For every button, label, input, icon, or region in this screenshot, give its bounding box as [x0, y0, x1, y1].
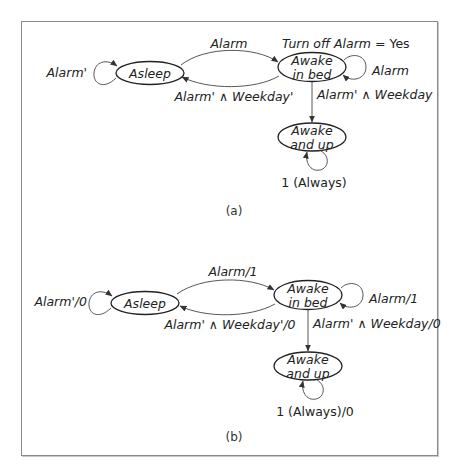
edge-awake-in-bed-self-b	[340, 284, 363, 308]
state-label-awake-in-bed-line1-b: Awake	[286, 281, 329, 296]
transition-label-awake-in-bed-to-asleep-b: Alarm' ∧ Weekday'/0	[163, 317, 295, 332]
edge-awake-in-bed-to-asleep-b	[180, 304, 275, 315]
output-note-a: Turn off Alarm = Yes	[282, 36, 410, 51]
transition-label-asleep-self-b: Alarm'/0	[33, 294, 87, 309]
edge-awake-in-bed-to-asleep-a	[182, 76, 279, 87]
edge-asleep-self-b	[89, 292, 112, 315]
transition-label-asleep-self-a: Alarm'	[46, 65, 87, 80]
transition-label-asleep-to-awake-in-bed-a: Alarm	[210, 36, 248, 51]
state-label-awake-and-up-line1-a: Awake	[290, 123, 333, 138]
output-note-plain-a: = Yes	[371, 36, 410, 51]
state-label-asleep-a: Asleep	[128, 66, 171, 81]
edge-asleep-to-awake-in-bed-a	[181, 50, 278, 65]
transition-label-awake-and-up-self-a: 1 (Always)	[281, 175, 347, 190]
edge-asleep-to-awake-in-bed-b	[177, 280, 274, 294]
diagram-a: Asleep Awake in bed Awake and up Turn of…	[46, 36, 434, 218]
diagram-b: Asleep Awake in bed Awake and up Alarm'/…	[33, 264, 440, 444]
state-label-awake-in-bed-line1-a: Awake	[290, 53, 333, 68]
edge-asleep-self-a	[94, 62, 117, 85]
transition-label-awake-in-bed-to-awake-and-up-b: Alarm' ∧ Weekday/0	[312, 316, 441, 331]
state-label-awake-and-up-line2-b: and up	[286, 366, 329, 381]
state-label-asleep-b: Asleep	[123, 296, 166, 311]
state-label-awake-in-bed-line2-a: in bed	[293, 67, 332, 82]
transition-label-awake-in-bed-to-awake-and-up-a: Alarm' ∧ Weekday	[316, 87, 433, 102]
edge-awake-and-up-self-a	[307, 151, 328, 170]
transition-label-awake-in-bed-self-a: Alarm	[371, 63, 409, 78]
state-label-awake-in-bed-line2-b: in bed	[289, 295, 328, 310]
transition-label-asleep-to-awake-in-bed-b: Alarm/1	[207, 264, 257, 279]
edge-awake-and-up-self-b	[303, 380, 324, 399]
diagram-canvas: Asleep Awake in bed Awake and up Turn of…	[0, 0, 461, 474]
output-note-italic-a: Turn off Alarm	[282, 36, 371, 51]
state-diagram-figure: Asleep Awake in bed Awake and up Turn of…	[0, 0, 461, 474]
caption-b: (b)	[226, 430, 243, 444]
transition-label-awake-in-bed-to-asleep-a: Alarm' ∧ Weekday'	[174, 89, 294, 104]
transition-label-awake-in-bed-self-b: Alarm/1	[368, 291, 418, 306]
caption-a: (a)	[226, 204, 243, 218]
transition-label-awake-and-up-self-b: 1 (Always)/0	[276, 404, 354, 419]
state-label-awake-and-up-line2-a: and up	[290, 137, 333, 152]
state-label-awake-and-up-line1-b: Awake	[286, 352, 329, 367]
